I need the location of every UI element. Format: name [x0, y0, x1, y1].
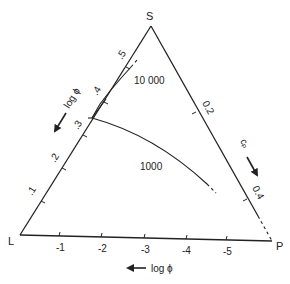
right-axis-ticks [192, 112, 247, 201]
curve-10000-inner-line [92, 99, 106, 118]
bottom-axis-direction: log ϕ [128, 263, 173, 274]
left-tick-label: .3 [70, 118, 84, 131]
bottom-edge-line [20, 235, 272, 241]
right-axis-label: cₚ [238, 137, 252, 150]
bottom-tick-label: -2 [98, 243, 107, 254]
bottom-tick-label: -4 [182, 245, 191, 256]
curve-1000-dashed-end [207, 184, 216, 193]
down-left-arrow-icon [55, 113, 66, 131]
right-edge-line [151, 26, 258, 216]
curve-1000: 1000 [88, 118, 216, 193]
left-tick-label: .2 [47, 151, 61, 164]
right-axis-direction: cₚ [238, 137, 257, 175]
bottom-axis-tick-labels: -1 -2 -3 -4 -5 [56, 242, 232, 257]
curve-label-10000: 10 000 [134, 75, 165, 86]
right-edge-dashed-segment [258, 216, 272, 241]
left-tick-label: .5 [114, 48, 128, 61]
bottom-tick-label: -1 [56, 242, 65, 253]
down-right-arrow-icon [247, 157, 257, 175]
curve-label-1000: 1000 [140, 161, 163, 172]
bottom-tick-label: -5 [223, 246, 232, 257]
curve-10000-dashed-end [131, 59, 138, 67]
left-edge-line [20, 26, 151, 235]
vertex-label-s: S [146, 10, 153, 22]
right-tick-label: 0.4 [250, 184, 266, 202]
ternary-phase-diagram: S L P -1 -2 -3 -4 -5 log ϕ .1 .2 .3 .4 .… [0, 0, 290, 284]
right-axis-tick-labels: 0.2 0.4 [200, 99, 266, 202]
left-axis-tick-labels: .1 .2 .3 .4 .5 [24, 48, 128, 197]
vertex-label-p: P [276, 240, 283, 252]
left-tick-label: .4 [89, 84, 103, 97]
left-axis-label: log ϕ [61, 85, 82, 110]
curve-1000-line [92, 118, 207, 184]
bottom-tick-label: -3 [141, 244, 150, 255]
bottom-axis-label: log ϕ [151, 263, 173, 274]
left-tick-label: .1 [24, 184, 38, 197]
left-axis-ticks [41, 67, 130, 203]
vertex-label-l: L [8, 235, 14, 247]
right-tick-label: 0.2 [200, 99, 216, 117]
triangle-edges [20, 26, 272, 241]
